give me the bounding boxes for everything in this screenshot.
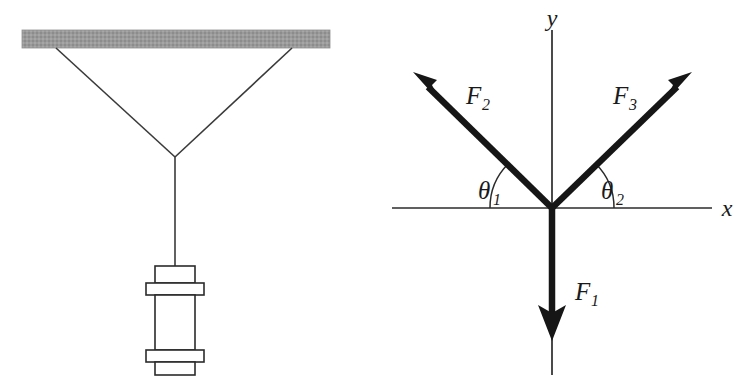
weight-top-flange — [146, 283, 204, 295]
y-axis-label: y — [545, 5, 558, 31]
angle-label-theta2-subscript: 2 — [616, 191, 624, 208]
weight-body — [155, 295, 195, 350]
force-label-F2-subscript: 2 — [482, 96, 490, 113]
right-cable — [175, 48, 292, 157]
angle-label-theta2-symbol: θ — [601, 177, 613, 204]
weight-bottom-flange — [146, 350, 204, 362]
angle-label-theta1: θ 1 — [478, 177, 501, 208]
force-label-F2-symbol: F — [465, 82, 482, 109]
angle-label-theta1-subscript: 1 — [493, 191, 501, 208]
force-label-F1: F 1 — [574, 278, 599, 309]
force-vector-F2-arrowhead — [413, 72, 440, 102]
weight-bottom-cap — [155, 362, 195, 375]
force-label-F3-symbol: F — [612, 82, 629, 109]
force-vector-F3-arrowhead — [665, 72, 692, 102]
hanging-weight-sketch: x y F 1 F 2 — [0, 0, 747, 392]
x-axis-label: x — [721, 195, 733, 221]
force-label-F2: F 2 — [465, 82, 490, 113]
ceiling-support-bar — [22, 30, 330, 48]
force-vector-F1 — [538, 208, 566, 341]
angle-label-theta1-symbol: θ — [478, 177, 490, 204]
left-cable — [56, 48, 175, 157]
force-label-F3: F 3 — [612, 82, 637, 113]
physics-figure: x y F 1 F 2 — [0, 0, 747, 392]
force-label-F1-symbol: F — [574, 278, 591, 305]
angle-label-theta2: θ 2 — [601, 177, 624, 208]
suspended-weight — [146, 266, 204, 375]
force-label-F3-subscript: 3 — [628, 96, 637, 113]
force-label-F1-subscript: 1 — [591, 292, 599, 309]
weight-top-cap — [155, 266, 195, 283]
